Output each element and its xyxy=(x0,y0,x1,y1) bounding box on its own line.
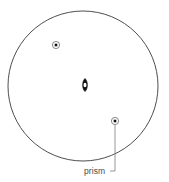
prism-marker-dot-lower-right xyxy=(114,120,117,123)
diagram-svg: prism xyxy=(0,0,169,182)
prism-leader-line xyxy=(110,125,115,171)
prism-marker-lower-right xyxy=(111,117,118,124)
prism-label: prism xyxy=(84,166,105,176)
instrument-lens-core xyxy=(84,83,87,88)
prism-marker-upper-left xyxy=(52,41,59,48)
diagram-canvas: prism xyxy=(0,0,169,182)
prism-marker-dot-upper-left xyxy=(55,44,58,47)
instrument-marker-center xyxy=(83,79,88,92)
